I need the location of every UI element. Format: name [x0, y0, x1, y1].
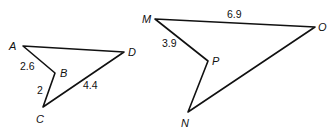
figure-abcd: A B C D 2.6 2 4.4 [8, 40, 136, 125]
vertex-label-b: B [60, 67, 67, 79]
edge-label-ab: 2.6 [20, 60, 35, 72]
vertex-label-d: D [128, 46, 136, 58]
vertex-label-p: P [212, 55, 220, 67]
vertex-label-c: C [36, 113, 44, 125]
vertex-label-n: N [181, 117, 189, 129]
vertex-label-m: M [142, 13, 152, 25]
edge-label-cd: 4.4 [83, 79, 98, 91]
edge-label-mo: 6.9 [227, 8, 242, 20]
polygon-mpno [155, 19, 315, 112]
vertex-label-o: O [318, 21, 327, 33]
vertex-label-a: A [8, 40, 16, 52]
figure-mpno: M P N O 6.9 3.9 [142, 8, 327, 129]
edge-label-mp: 3.9 [162, 37, 177, 49]
polygon-abcd [23, 46, 124, 107]
edge-label-bc: 2 [37, 84, 43, 96]
similar-figures-diagram: A B C D 2.6 2 4.4 M P N O 6.9 3.9 [0, 0, 333, 131]
